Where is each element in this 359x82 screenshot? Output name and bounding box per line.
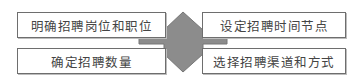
- box-label: 明确招聘岗位和职位: [31, 16, 153, 35]
- box-determine-quantity: 确定招聘数量: [17, 48, 166, 74]
- box-define-positions: 明确招聘岗位和职位: [17, 12, 166, 38]
- box-label: 确定招聘数量: [51, 52, 132, 71]
- box-set-timeline: 设定招聘时间节点: [202, 12, 346, 38]
- box-select-channels: 选择招聘渠道和方式: [202, 48, 346, 74]
- box-label: 选择招聘渠道和方式: [213, 52, 335, 71]
- box-label: 设定招聘时间节点: [220, 16, 328, 35]
